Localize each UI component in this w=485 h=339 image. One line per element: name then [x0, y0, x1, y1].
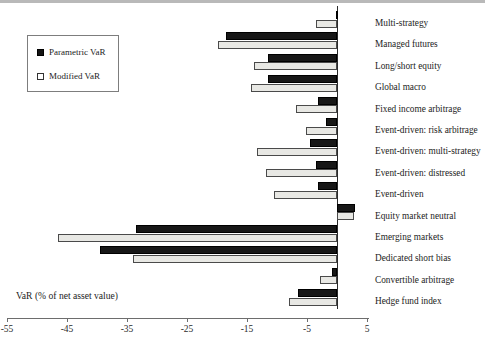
category-label: Dedicated short bias [375, 253, 451, 263]
bar-parametric [136, 225, 337, 233]
bar-parametric [298, 289, 337, 297]
x-tick-label: -5 [303, 324, 311, 334]
category-label: Event-driven: risk arbitrage [375, 125, 478, 135]
x-tick-mark [307, 318, 308, 322]
category-label: Multi-strategy [375, 18, 428, 28]
bar-parametric [100, 246, 337, 254]
x-tick-label: -45 [61, 324, 74, 334]
bar-parametric [226, 32, 337, 40]
var-bar-chart: -55-45-35-25-15-55 Multi-strategyManaged… [0, 0, 485, 339]
legend-item-parametric: Parametric VaR [37, 47, 106, 57]
zero-axis-line [337, 6, 338, 309]
bar-modified [266, 169, 337, 177]
category-label: Hedge fund index [375, 296, 442, 306]
x-tick-mark [67, 318, 68, 322]
bar-modified [254, 62, 337, 70]
category-label: Emerging markets [375, 232, 443, 242]
x-tick-label: 5 [365, 324, 370, 334]
x-tick-mark [187, 318, 188, 322]
category-label: Event-driven: distressed [375, 168, 465, 178]
bar-parametric [268, 54, 337, 62]
bar-modified [316, 20, 337, 28]
x-tick-label: -55 [1, 324, 14, 334]
bar-modified [320, 276, 337, 284]
category-label: Event-driven [375, 189, 424, 199]
x-tick-label: -25 [181, 324, 194, 334]
category-label: Long/short equity [375, 61, 441, 71]
bar-parametric [337, 204, 355, 212]
bar-modified [289, 298, 337, 306]
category-label: Event-driven: multi-strategy [375, 146, 481, 156]
bar-modified [251, 84, 337, 92]
x-tick-mark [127, 318, 128, 322]
x-tick-mark [367, 318, 368, 322]
category-label: Global macro [375, 82, 426, 92]
legend-swatch-filled-square-icon [37, 49, 44, 56]
bar-parametric [332, 268, 337, 276]
x-tick-mark [247, 318, 248, 322]
bar-parametric [310, 139, 337, 147]
legend-label-modified: Modified VaR [49, 71, 100, 81]
bar-modified [306, 127, 337, 135]
x-tick-label: -35 [121, 324, 134, 334]
category-label: Convertible arbitrage [375, 275, 454, 285]
bar-modified [274, 191, 337, 199]
legend-item-modified: Modified VaR [37, 71, 100, 81]
bar-parametric [316, 161, 337, 169]
bar-modified [58, 234, 337, 242]
legend-box: Parametric VaR Modified VaR [27, 35, 119, 92]
legend-swatch-open-square-icon [37, 73, 44, 80]
bar-modified [296, 105, 337, 113]
category-label: Equity market neutral [375, 211, 456, 221]
x-axis-title: VaR (% of net asset value) [16, 290, 118, 301]
x-axis-line [7, 318, 369, 319]
bar-modified [133, 255, 337, 263]
x-tick-label: -15 [241, 324, 254, 334]
bar-modified [257, 148, 337, 156]
top-edge-artifact [0, 0, 485, 3]
bar-parametric [318, 182, 337, 190]
category-label: Managed futures [375, 39, 438, 49]
x-tick-mark [7, 318, 8, 322]
bar-parametric [268, 75, 337, 83]
bar-parametric [318, 97, 337, 105]
legend-label-parametric: Parametric VaR [49, 47, 106, 57]
bar-modified [218, 41, 337, 49]
bar-modified [337, 212, 354, 220]
bar-parametric [326, 118, 337, 126]
category-label: Fixed income arbitrage [375, 104, 461, 114]
bar-parametric [336, 11, 338, 19]
